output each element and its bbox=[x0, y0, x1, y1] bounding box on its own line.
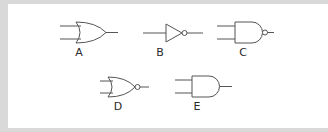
gate-a-or: A bbox=[60, 22, 118, 59]
gate-d-label: D bbox=[114, 100, 122, 113]
gate-b-not: B bbox=[143, 24, 203, 59]
logic-gates-diagram: A B C D E bbox=[0, 0, 328, 132]
gate-e-and: E bbox=[175, 76, 232, 113]
gate-a-label: A bbox=[75, 46, 83, 59]
gate-b-label: B bbox=[156, 46, 164, 59]
gate-c-nand: C bbox=[217, 22, 274, 59]
gate-d-nor: D bbox=[100, 77, 149, 113]
gate-e-label: E bbox=[194, 100, 201, 113]
gate-c-label: C bbox=[239, 46, 247, 59]
